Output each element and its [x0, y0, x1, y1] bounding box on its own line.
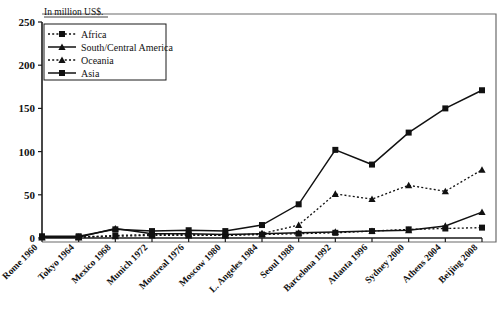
chart-container: 050100150200250Rome 1960Tokyo 1964Mexico… — [0, 0, 504, 309]
series-asia — [39, 87, 485, 239]
y-axis: 050100150200250 — [19, 16, 43, 244]
legend-label: Africa — [81, 29, 107, 40]
y-tick-label: 200 — [19, 59, 36, 71]
y-tick-label: 150 — [19, 102, 36, 114]
y-tick-label: 0 — [30, 232, 36, 244]
x-tick-label: Tokyo 1964 — [36, 242, 76, 282]
legend-label: Asia — [81, 68, 100, 79]
y-axis-title: In million US$. — [44, 7, 103, 17]
x-tick-label: Seoul 1988 — [258, 242, 296, 280]
legend: AfricaSouth/Central AmericaOceaniaAsia — [44, 24, 173, 80]
y-tick-label: 100 — [19, 146, 36, 158]
y-tick-label: 250 — [19, 16, 36, 28]
y-tick-label: 50 — [24, 189, 36, 201]
x-tick-label: Sydney 2000 — [363, 242, 406, 285]
x-tick-label: Beijing 2008 — [437, 242, 480, 285]
legend-label: South/Central America — [81, 42, 173, 53]
legend-label: Oceania — [81, 55, 114, 66]
x-tick-label: Rome 1960 — [0, 242, 39, 281]
line-chart: 050100150200250Rome 1960Tokyo 1964Mexico… — [0, 0, 504, 309]
x-axis: Rome 1960Tokyo 1964Mexico 1968Munich 197… — [0, 238, 482, 294]
